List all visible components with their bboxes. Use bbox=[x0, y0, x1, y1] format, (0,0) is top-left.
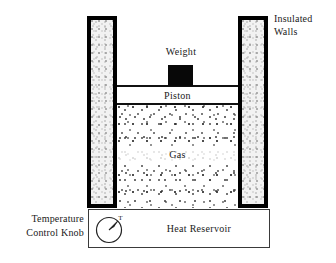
weight-block bbox=[168, 65, 193, 86]
temperature-control-knob-label-line2: Control Knob bbox=[2, 226, 84, 240]
piston-label: Piston bbox=[117, 90, 238, 101]
gas-label: Gas bbox=[117, 148, 238, 161]
knob-dial-icon[interactable]: T bbox=[95, 213, 126, 244]
thermodynamics-diagram: Gas Piston Weight Heat Reservoir T Insul… bbox=[0, 0, 336, 263]
insulated-wall-right bbox=[238, 16, 268, 208]
insulated-wall-left bbox=[87, 16, 117, 208]
temperature-control-knob-label-line1: Temperature bbox=[2, 212, 84, 226]
temperature-control-knob[interactable]: T bbox=[95, 213, 126, 244]
heat-reservoir-label: Heat Reservoir bbox=[129, 223, 269, 234]
weight-label: Weight bbox=[148, 46, 214, 57]
temperature-control-knob-label: Temperature Control Knob bbox=[2, 212, 88, 240]
knob-dial-marker-label: T bbox=[118, 214, 123, 222]
insulated-walls-label: Insulated Walls bbox=[274, 12, 334, 38]
gas-chamber: Gas bbox=[117, 104, 238, 208]
piston: Piston bbox=[117, 85, 238, 105]
insulated-walls-label-line1: Insulated bbox=[274, 12, 334, 25]
insulated-walls-label-line2: Walls bbox=[274, 25, 334, 38]
